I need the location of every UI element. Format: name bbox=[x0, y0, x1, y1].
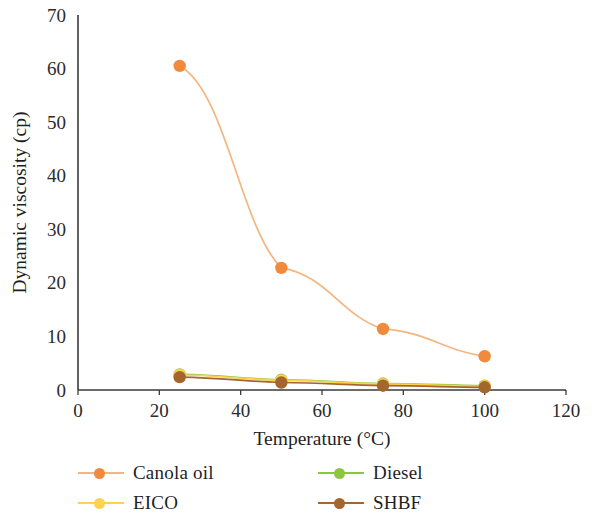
legend-dot-canola-oil bbox=[94, 468, 105, 479]
legend-item-canola-oil[interactable]: Canola oil bbox=[78, 459, 318, 487]
legend-label-eico: EICO bbox=[133, 492, 178, 514]
data-point-shbf bbox=[478, 381, 490, 393]
legend-marker-shbf bbox=[318, 495, 364, 511]
x-tick-label: 80 bbox=[394, 400, 413, 421]
x-tick-label: 100 bbox=[470, 400, 499, 421]
axes: 010203040506070020406080100120 bbox=[47, 5, 580, 422]
legend-label-canola-oil: Canola oil bbox=[133, 462, 214, 484]
legend-marker-diesel bbox=[318, 465, 364, 481]
data-point-shbf bbox=[377, 380, 389, 392]
y-tick-label: 10 bbox=[47, 326, 66, 347]
y-tick-label: 70 bbox=[47, 5, 66, 26]
y-tick-label: 20 bbox=[47, 272, 66, 293]
legend-item-diesel[interactable]: Diesel bbox=[318, 459, 558, 487]
legend-label-shbf: SHBF bbox=[373, 492, 421, 514]
legend-item-shbf[interactable]: SHBF bbox=[318, 489, 558, 517]
x-tick-label: 40 bbox=[231, 400, 250, 421]
data-point-shbf bbox=[173, 371, 185, 383]
legend-dot-shbf bbox=[334, 498, 345, 509]
data-point-canola-oil bbox=[173, 60, 185, 72]
legend-marker-canola-oil bbox=[78, 465, 124, 481]
data-series bbox=[173, 60, 490, 394]
series-line-canola-oil bbox=[180, 66, 485, 356]
y-tick-label: 0 bbox=[57, 380, 67, 401]
y-tick-label: 30 bbox=[47, 219, 66, 240]
data-point-canola-oil bbox=[478, 350, 490, 362]
x-tick-label: 60 bbox=[313, 400, 332, 421]
y-axis-title: Dynamic viscosity (cp) bbox=[9, 112, 31, 294]
legend-dot-diesel bbox=[334, 468, 345, 479]
x-tick-label: 20 bbox=[150, 400, 169, 421]
data-point-canola-oil bbox=[377, 323, 389, 335]
data-point-canola-oil bbox=[275, 262, 287, 274]
chart-legend: Canola oil Diesel EICO SHBF bbox=[78, 458, 548, 518]
x-axis-title: Temperature (°C) bbox=[254, 428, 391, 450]
y-tick-label: 60 bbox=[47, 58, 66, 79]
x-tick-label: 0 bbox=[73, 400, 83, 421]
legend-marker-eico bbox=[78, 495, 124, 511]
chart-plot-area: 010203040506070020406080100120 Temperatu… bbox=[0, 0, 605, 523]
legend-item-eico[interactable]: EICO bbox=[78, 489, 318, 517]
data-point-shbf bbox=[275, 376, 287, 388]
y-tick-label: 50 bbox=[47, 112, 66, 133]
legend-dot-eico bbox=[94, 498, 105, 509]
axis-titles: Temperature (°C)Dynamic viscosity (cp) bbox=[9, 112, 390, 450]
y-tick-label: 40 bbox=[47, 165, 66, 186]
legend-label-diesel: Diesel bbox=[373, 462, 423, 484]
x-tick-label: 120 bbox=[552, 400, 581, 421]
chart-figure: 010203040506070020406080100120 Temperatu… bbox=[0, 0, 605, 523]
